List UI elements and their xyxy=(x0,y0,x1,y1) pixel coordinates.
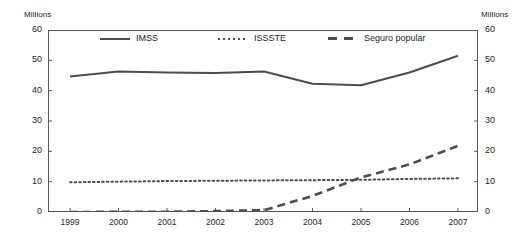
series-line-issste xyxy=(70,178,458,182)
y-tick-label-right-50: 50 xyxy=(485,54,507,64)
y-tick-label-left-40: 40 xyxy=(20,85,42,95)
series-line-imss xyxy=(70,56,458,85)
chart-legend: IMSS ISSSTE Seguro popular xyxy=(100,32,430,46)
y-tick-label-right-40: 40 xyxy=(485,85,507,95)
legend-line-dashed-icon xyxy=(328,37,358,40)
y-tick-label-left-60: 60 xyxy=(20,24,42,34)
x-tick-label-2002: 2002 xyxy=(196,217,236,227)
y-tick-label-right-20: 20 xyxy=(485,145,507,155)
legend-line-dotted-icon xyxy=(218,38,248,40)
y-tick-label-left-10: 10 xyxy=(20,176,42,186)
y-tick-label-left-50: 50 xyxy=(20,54,42,64)
x-tick-label-2001: 2001 xyxy=(147,217,187,227)
legend-line-solid-icon xyxy=(100,38,130,40)
legend-label-issste: ISSSTE xyxy=(254,33,286,43)
axis-tick-marks xyxy=(48,60,478,212)
x-tick-label-1999: 1999 xyxy=(50,217,90,227)
x-tick-label-2007: 2007 xyxy=(438,217,478,227)
series-line-seguro-popular xyxy=(70,146,458,212)
y-tick-label-left-30: 30 xyxy=(20,115,42,125)
legend-label-imss: IMSS xyxy=(136,33,158,43)
x-tick-label-2006: 2006 xyxy=(390,217,430,227)
legend-label-seguro-popular: Seguro popular xyxy=(364,33,426,43)
y-tick-label-right-0: 0 xyxy=(485,206,507,216)
y-tick-label-left-0: 0 xyxy=(20,206,42,216)
plot-series-layer xyxy=(48,30,478,212)
line-chart: Millions Millions 6050403020100 60504030… xyxy=(0,0,529,248)
right-axis-unit-label: Millions xyxy=(481,10,508,19)
y-tick-label-right-30: 30 xyxy=(485,115,507,125)
y-tick-label-right-10: 10 xyxy=(485,176,507,186)
left-axis-unit-label: Millions xyxy=(24,10,51,19)
x-tick-label-2005: 2005 xyxy=(341,217,381,227)
x-tick-label-2000: 2000 xyxy=(99,217,139,227)
x-tick-label-2004: 2004 xyxy=(293,217,333,227)
y-tick-label-left-20: 20 xyxy=(20,145,42,155)
y-tick-label-right-60: 60 xyxy=(485,24,507,34)
x-tick-label-2003: 2003 xyxy=(244,217,284,227)
